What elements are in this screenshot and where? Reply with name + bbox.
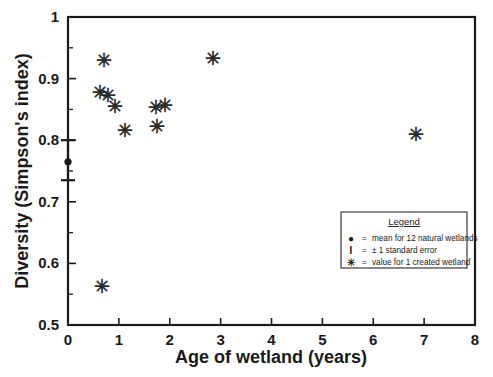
x-tick-label: 5 <box>318 331 326 348</box>
x-tick-label: 2 <box>166 331 174 348</box>
legend-equals: = <box>362 258 367 267</box>
x-tick-label: 1 <box>115 331 123 348</box>
data-point-asterisk: ✳ <box>107 96 123 117</box>
y-tick-label: 0.5 <box>38 316 59 333</box>
x-tick-label: 0 <box>64 331 72 348</box>
y-tick-label: 0.9 <box>38 70 59 87</box>
legend-symbol: I <box>350 245 353 256</box>
legend-symbol: ● <box>348 233 354 244</box>
legend-equals: = <box>362 234 367 243</box>
y-tick-label: 0.8 <box>38 131 59 148</box>
chart-background <box>0 0 493 377</box>
legend-entry-label: mean for 12 natural wetlands <box>372 234 478 243</box>
y-axis-title: Diversity (Simpson's index) <box>12 53 32 288</box>
data-point-asterisk: ✳ <box>157 95 173 116</box>
chart-canvas: 012345678 0.50.60.70.80.91 ✳✳✳✳✳✳✳✳✳✳✳ A… <box>0 0 493 377</box>
x-tick-label: 7 <box>420 331 428 348</box>
y-tick-label: 0.7 <box>38 193 59 210</box>
data-point-asterisk: ✳ <box>117 120 133 141</box>
legend-equals: = <box>362 246 367 255</box>
x-tick-label: 6 <box>369 331 377 348</box>
data-point-asterisk: ✳ <box>205 48 221 69</box>
legend-symbol: ✳ <box>347 257 356 268</box>
y-tick-label: 0.6 <box>38 254 59 271</box>
legend: Legend ●=mean for 12 natural wetlandsI=±… <box>341 212 478 268</box>
scatter-plot-figure: 012345678 0.50.60.70.80.91 ✳✳✳✳✳✳✳✳✳✳✳ A… <box>0 0 493 377</box>
legend-entry-label: value for 1 created wetland <box>372 258 471 267</box>
y-tick-label: 1 <box>51 8 59 25</box>
legend-title: Legend <box>388 216 420 227</box>
data-point-asterisk: ✳ <box>96 50 112 71</box>
data-point-asterisk: ✳ <box>408 124 424 145</box>
data-point-asterisk: ✳ <box>94 276 110 297</box>
x-tick-label: 8 <box>471 331 479 348</box>
x-tick-label: 3 <box>216 331 224 348</box>
x-axis-title: Age of wetland (years) <box>175 347 367 367</box>
legend-entry-label: ± 1 standard error <box>372 246 437 255</box>
data-point-asterisk: ✳ <box>149 116 165 137</box>
x-tick-label: 4 <box>267 331 276 348</box>
mean-marker-dot <box>64 158 71 165</box>
